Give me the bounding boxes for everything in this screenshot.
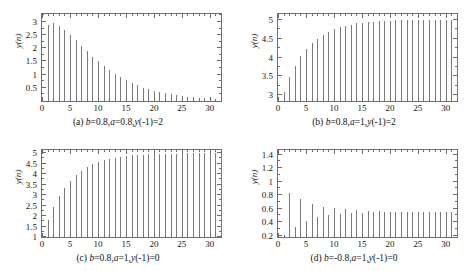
- y-tick: [42, 47, 46, 48]
- y-tick: [42, 60, 46, 61]
- y-tick-right: [219, 14, 221, 15]
- y-tick: [278, 75, 282, 76]
- panel-a: y(n) 0.511.522.53 051015202530 (a) b=0.8…: [0, 0, 236, 135]
- x-tick: [351, 99, 352, 101]
- x-tick-top: [92, 150, 93, 152]
- y-tick-right: [453, 94, 457, 95]
- stem-marker: [92, 57, 93, 101]
- stem-plot-figure: y(n) 0.511.522.53 051015202530 (a) b=0.8…: [0, 0, 472, 271]
- x-tick-top: [187, 150, 188, 152]
- y-tick: [42, 54, 44, 55]
- x-tick-top: [132, 150, 133, 152]
- stem-marker: [412, 212, 413, 237]
- y-tick-right: [455, 201, 457, 202]
- stem-marker: [401, 212, 402, 237]
- x-tick: [109, 99, 110, 101]
- x-tick-top: [412, 14, 413, 16]
- x-tick: [215, 99, 216, 101]
- x-tick-label: 5: [304, 103, 309, 114]
- stem-marker: [407, 212, 408, 237]
- x-tick-top: [312, 150, 313, 152]
- x-tick: [312, 99, 313, 101]
- x-tick-top: [53, 150, 54, 152]
- stem-marker: [143, 155, 144, 237]
- y-tick-right: [217, 226, 221, 227]
- caption-text: =0.8,: [94, 253, 114, 263]
- x-tick: [171, 235, 172, 237]
- x-tick: [76, 235, 77, 237]
- stem-marker: [440, 212, 441, 237]
- stem-marker: [193, 153, 194, 237]
- y-tick-label: 1.2: [262, 164, 273, 173]
- x-tick-top: [143, 150, 144, 152]
- caption-text: (a): [73, 117, 86, 127]
- x-tick-top: [165, 150, 166, 152]
- y-tick-right: [219, 157, 221, 158]
- stem-marker: [351, 213, 352, 237]
- x-tick: [204, 99, 205, 101]
- caption-text: =0.8,: [330, 117, 350, 127]
- y-tick-label: 1.4: [262, 150, 273, 159]
- y-tick-right: [219, 168, 221, 169]
- y-tick-label: 1: [269, 177, 274, 186]
- stem-marker: [457, 20, 458, 101]
- caption-text: =0.8,: [115, 117, 135, 127]
- x-tick-top: [182, 14, 183, 18]
- x-tick: [418, 97, 419, 101]
- y-tick: [278, 221, 282, 222]
- x-tick: [373, 99, 374, 101]
- panel-b-plot-area: [277, 13, 458, 102]
- y-tick-right: [453, 75, 457, 76]
- y-tick-right: [453, 38, 457, 39]
- x-tick: [154, 233, 155, 237]
- x-tick-top: [132, 14, 133, 16]
- x-tick: [435, 99, 436, 101]
- x-tick-top: [451, 150, 452, 152]
- stem-marker: [446, 20, 447, 101]
- x-tick-top: [401, 14, 402, 16]
- x-tick-top: [126, 14, 127, 18]
- x-tick: [300, 235, 301, 237]
- x-tick: [412, 99, 413, 101]
- x-tick: [104, 99, 105, 101]
- x-tick: [334, 233, 335, 237]
- stem-marker: [215, 153, 216, 237]
- y-tick: [278, 57, 282, 58]
- y-tick: [278, 228, 280, 229]
- x-tick: [423, 99, 424, 101]
- x-tick: [159, 99, 160, 101]
- x-tick: [312, 235, 313, 237]
- stem-marker: [295, 66, 296, 101]
- caption-text: =-0.8,: [329, 253, 352, 263]
- x-tick-label: 5: [304, 239, 309, 250]
- y-tick-label: 3: [269, 91, 274, 100]
- panel-c-stems: [42, 150, 221, 237]
- x-tick-top: [289, 150, 290, 152]
- y-tick-right: [219, 189, 221, 190]
- x-tick: [295, 99, 296, 101]
- x-tick-top: [362, 14, 363, 18]
- x-tick: [48, 99, 49, 101]
- x-tick: [362, 97, 363, 101]
- stem-marker: [289, 193, 290, 238]
- x-tick-top: [328, 14, 329, 16]
- stem-marker: [59, 196, 60, 237]
- x-tick: [81, 99, 82, 101]
- x-tick-top: [109, 150, 110, 152]
- y-tick-label: 0.2: [262, 231, 273, 240]
- y-tick: [42, 28, 44, 29]
- y-tick-label: 5: [33, 149, 38, 158]
- x-tick-top: [53, 14, 54, 16]
- y-tick: [42, 205, 46, 206]
- y-tick: [278, 19, 282, 20]
- x-tick: [204, 235, 205, 237]
- x-tick-top: [440, 14, 441, 16]
- x-tick-top: [368, 150, 369, 152]
- x-tick: [407, 235, 408, 237]
- caption-text: (c): [76, 253, 89, 263]
- stem-marker: [76, 175, 77, 237]
- x-tick: [306, 233, 307, 237]
- x-tick-label: 25: [413, 239, 422, 250]
- x-tick: [340, 99, 341, 101]
- y-tick-right: [453, 154, 457, 155]
